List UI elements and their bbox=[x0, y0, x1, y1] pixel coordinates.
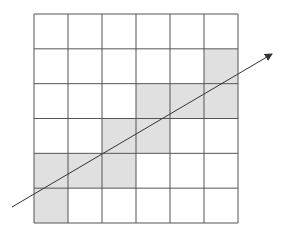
grid-cell bbox=[68, 14, 102, 49]
shaded-cell bbox=[102, 153, 136, 188]
grid-cell bbox=[34, 119, 68, 154]
grid-cell bbox=[68, 84, 102, 119]
grid-cell bbox=[136, 153, 170, 188]
grid-cell bbox=[170, 153, 204, 188]
shaded-cell bbox=[34, 188, 68, 223]
shaded-cell bbox=[102, 119, 136, 154]
grid-cell bbox=[136, 49, 170, 84]
grid-line-diagram bbox=[0, 0, 283, 235]
grid-cell bbox=[102, 14, 136, 49]
grid-cell bbox=[136, 14, 170, 49]
grid-cell bbox=[34, 14, 68, 49]
grid-cell bbox=[204, 14, 238, 49]
grid-cell bbox=[170, 188, 204, 223]
grid-cell bbox=[68, 49, 102, 84]
grid-cell bbox=[34, 49, 68, 84]
grid-cell bbox=[136, 188, 170, 223]
shaded-cell bbox=[34, 153, 68, 188]
shaded-cell bbox=[204, 49, 238, 84]
grid-cell bbox=[34, 84, 68, 119]
shaded-cell bbox=[204, 84, 238, 119]
grid-cell bbox=[68, 188, 102, 223]
grid-cell bbox=[102, 49, 136, 84]
grid-cell bbox=[68, 119, 102, 154]
grid-cell bbox=[204, 119, 238, 154]
grid-cell bbox=[204, 153, 238, 188]
shaded-cell bbox=[170, 84, 204, 119]
grid-cell bbox=[170, 49, 204, 84]
grid-cell bbox=[170, 119, 204, 154]
grid-cell bbox=[102, 84, 136, 119]
grid-cell bbox=[170, 14, 204, 49]
grid-cell bbox=[204, 188, 238, 223]
grid-cell bbox=[102, 188, 136, 223]
shaded-cell bbox=[136, 84, 170, 119]
